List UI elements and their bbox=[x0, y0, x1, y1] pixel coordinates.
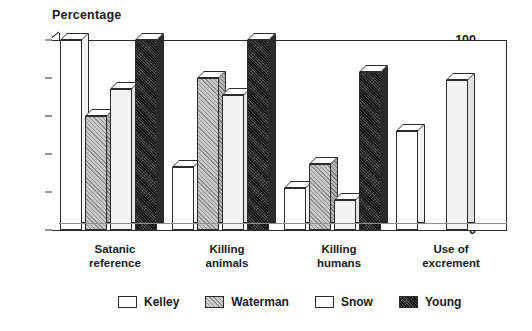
bar-front-face bbox=[110, 89, 132, 230]
legend-label: Waterman bbox=[231, 295, 289, 309]
chart-legend: KelleyWatermanSnowYoung bbox=[118, 295, 487, 309]
y-tick-40 bbox=[45, 154, 52, 155]
bar-snow-3 bbox=[446, 80, 468, 230]
bar-snow-1 bbox=[222, 95, 244, 230]
bar-front-face bbox=[60, 40, 82, 230]
y-tick-60 bbox=[45, 116, 52, 117]
plot-floor-front-edge bbox=[52, 230, 507, 231]
bar-young-1 bbox=[247, 40, 269, 230]
bar-waterman-2 bbox=[309, 164, 331, 231]
chart-title: Percentage bbox=[52, 8, 121, 22]
hatched-swatch-icon bbox=[205, 296, 224, 308]
bar-front-face bbox=[247, 40, 269, 230]
light-swatch-icon bbox=[315, 296, 334, 308]
bar-front-face bbox=[446, 80, 468, 230]
plot-right-border bbox=[506, 40, 507, 230]
plot-top-border bbox=[52, 40, 507, 41]
bar-kelley-3 bbox=[396, 131, 418, 230]
bar-front-face bbox=[172, 167, 194, 230]
bar-front-face bbox=[359, 72, 381, 230]
bar-snow-2 bbox=[334, 200, 356, 230]
bar-front-face bbox=[334, 200, 356, 230]
y-tick-80 bbox=[45, 78, 52, 79]
bar-side-face bbox=[381, 65, 388, 223]
bar-front-face bbox=[309, 164, 331, 231]
bar-waterman-0 bbox=[85, 116, 107, 230]
bar-front-face bbox=[222, 95, 244, 230]
y-tick-20 bbox=[45, 192, 52, 193]
x-category-label-2: Killing humans bbox=[279, 243, 399, 270]
plot-area bbox=[52, 40, 507, 230]
bar-side-face bbox=[269, 33, 276, 223]
white-swatch-icon bbox=[118, 296, 137, 308]
legend-label: Snow bbox=[341, 295, 373, 309]
bar-side-face bbox=[157, 33, 164, 223]
legend-item-snow[interactable]: Snow bbox=[315, 295, 373, 309]
bar-young-0 bbox=[135, 40, 157, 230]
y-tick-100 bbox=[45, 40, 52, 41]
plot-floor-back-edge bbox=[59, 223, 507, 224]
bar-front-face bbox=[396, 131, 418, 230]
bar-side-face bbox=[418, 124, 425, 223]
x-category-label-0: Satanic reference bbox=[55, 243, 175, 270]
legend-item-kelley[interactable]: Kelley bbox=[118, 295, 179, 309]
x-category-label-1: Killing animals bbox=[167, 243, 287, 270]
bar-front-face bbox=[85, 116, 107, 230]
y-tick-0 bbox=[45, 230, 52, 231]
bar-snow-0 bbox=[110, 89, 132, 230]
bar-kelley-0 bbox=[60, 40, 82, 230]
bar-waterman-1 bbox=[197, 78, 219, 230]
bar-front-face bbox=[135, 40, 157, 230]
x-category-label-3: Use of excrement bbox=[391, 243, 511, 270]
legend-item-waterman[interactable]: Waterman bbox=[205, 295, 289, 309]
legend-item-young[interactable]: Young bbox=[399, 295, 461, 309]
dark-swatch-icon bbox=[399, 296, 418, 308]
legend-label: Kelley bbox=[144, 295, 179, 309]
legend-label: Young bbox=[425, 295, 461, 309]
bar-chart: Percentage 100 80 60 40 20 0 Satanic ref… bbox=[0, 0, 532, 331]
bar-side-face bbox=[468, 73, 475, 223]
bar-young-2 bbox=[359, 72, 381, 230]
bar-kelley-1 bbox=[172, 167, 194, 230]
bar-front-face bbox=[197, 78, 219, 230]
